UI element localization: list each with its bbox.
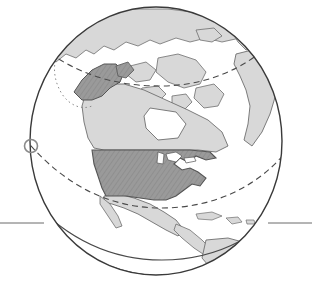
lake-michigan — [157, 152, 164, 164]
region-puerto-rico — [246, 220, 255, 224]
globe-illustration — [0, 0, 312, 286]
globe-figure — [0, 0, 312, 286]
region-south-america-north — [202, 238, 274, 286]
